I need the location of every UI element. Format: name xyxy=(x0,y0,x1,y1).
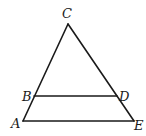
label-b: B xyxy=(21,89,32,104)
segment-ac xyxy=(23,24,68,121)
segment-ce xyxy=(68,24,134,121)
label-e: E xyxy=(133,118,144,133)
label-d: D xyxy=(118,89,130,104)
triangle-diagram: C B D A E xyxy=(0,0,146,136)
label-a: A xyxy=(10,116,20,131)
label-c: C xyxy=(62,6,72,21)
